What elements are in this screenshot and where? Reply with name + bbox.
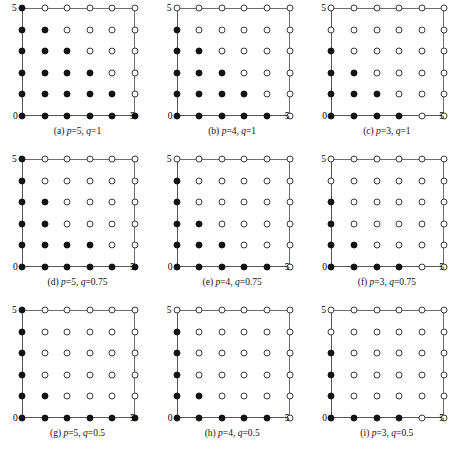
data-point-open <box>64 350 71 357</box>
plot-frame-g <box>22 310 135 418</box>
data-point-open <box>441 242 448 249</box>
data-point-open <box>350 371 357 378</box>
x-axis-max-label-g: 5 <box>130 414 135 424</box>
data-point-open <box>64 177 71 184</box>
data-point-filled <box>328 113 335 120</box>
data-point-open <box>41 328 48 335</box>
data-point-open <box>64 371 71 378</box>
data-point-filled <box>64 48 71 55</box>
data-point-filled <box>64 415 71 422</box>
data-point-open <box>286 48 293 55</box>
data-point-open <box>264 48 271 55</box>
data-point-open <box>286 5 293 12</box>
data-point-open <box>350 199 357 206</box>
data-point-open <box>350 350 357 357</box>
data-point-open <box>86 371 93 378</box>
data-point-open <box>350 156 357 163</box>
data-point-open <box>196 177 203 184</box>
data-point-open <box>218 156 225 163</box>
data-point-open <box>396 393 403 400</box>
data-point-filled <box>41 69 48 76</box>
data-point-filled <box>86 264 93 271</box>
data-point-open <box>109 26 116 33</box>
data-point-filled <box>350 264 357 271</box>
data-point-filled <box>64 69 71 76</box>
data-point-open <box>264 371 271 378</box>
data-point-filled <box>173 91 180 98</box>
scatter-panel-g: 505(g) p=5, q=0.5 <box>0 302 155 453</box>
data-point-filled <box>86 113 93 120</box>
data-point-filled <box>109 91 116 98</box>
data-point-open <box>264 393 271 400</box>
data-point-open <box>132 328 139 335</box>
data-point-open <box>441 328 448 335</box>
plot-frame-d <box>22 159 135 267</box>
data-point-open <box>264 91 271 98</box>
data-point-filled <box>19 371 26 378</box>
data-point-open <box>350 328 357 335</box>
data-point-open <box>264 220 271 227</box>
plot-area-b <box>177 8 290 116</box>
data-point-open <box>441 371 448 378</box>
panel-caption-c: (c) p=3, q=1 <box>309 126 464 136</box>
data-point-filled <box>196 48 203 55</box>
data-point-filled <box>328 393 335 400</box>
data-point-filled <box>41 48 48 55</box>
data-point-open <box>373 177 380 184</box>
data-point-open <box>218 393 225 400</box>
data-point-open <box>132 393 139 400</box>
data-point-filled <box>328 220 335 227</box>
data-point-open <box>173 5 180 12</box>
data-point-open <box>286 69 293 76</box>
data-point-filled <box>19 156 26 163</box>
data-point-open <box>241 393 248 400</box>
data-point-filled <box>109 415 116 422</box>
data-point-open <box>86 26 93 33</box>
panel-caption-a: (a) p=5, q=1 <box>0 126 155 136</box>
data-point-open <box>418 177 425 184</box>
data-point-open <box>196 26 203 33</box>
data-point-filled <box>19 48 26 55</box>
plot-area-g <box>22 310 135 418</box>
data-point-open <box>286 156 293 163</box>
data-point-filled <box>328 264 335 271</box>
data-point-open <box>373 328 380 335</box>
data-point-open <box>264 307 271 314</box>
data-point-filled <box>196 113 203 120</box>
data-point-filled <box>241 415 248 422</box>
data-point-filled <box>218 113 225 120</box>
data-point-open <box>396 371 403 378</box>
plot-frame-c <box>331 8 444 116</box>
data-point-open <box>64 199 71 206</box>
data-point-open <box>41 156 48 163</box>
plot-area-a <box>22 8 135 116</box>
scatter-panel-c: 505(c) p=3, q=1 <box>309 0 464 151</box>
data-point-open <box>109 5 116 12</box>
data-point-open <box>441 199 448 206</box>
data-point-open <box>396 156 403 163</box>
data-point-open <box>418 307 425 314</box>
data-point-open <box>241 242 248 249</box>
data-point-open <box>41 371 48 378</box>
data-point-open <box>396 220 403 227</box>
data-point-open <box>64 393 71 400</box>
data-point-filled <box>19 393 26 400</box>
data-point-filled <box>19 5 26 12</box>
plot-area-e <box>177 159 290 267</box>
data-point-open <box>441 5 448 12</box>
data-point-filled <box>41 264 48 271</box>
data-point-open <box>350 5 357 12</box>
data-point-filled <box>328 91 335 98</box>
data-point-open <box>373 242 380 249</box>
panel-caption-g: (g) p=5, q=0.5 <box>0 428 155 438</box>
data-point-open <box>109 199 116 206</box>
data-point-open <box>109 371 116 378</box>
data-point-filled <box>19 415 26 422</box>
data-point-filled <box>173 113 180 120</box>
data-point-filled <box>64 91 71 98</box>
data-point-filled <box>350 113 357 120</box>
scatter-panel-a: 505(a) p=5, q=1 <box>0 0 155 151</box>
data-point-filled <box>218 264 225 271</box>
data-point-filled <box>41 113 48 120</box>
data-point-open <box>86 48 93 55</box>
